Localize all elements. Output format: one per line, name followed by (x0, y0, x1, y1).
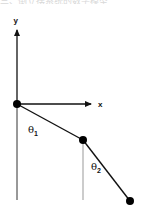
y-axis-label: y (14, 16, 19, 25)
pendulum-diagram: y x θ1 θ2 (0, 0, 146, 221)
theta1-label: θ1 (28, 124, 38, 137)
theta1-subscript: 1 (34, 130, 38, 137)
middle-joint (79, 136, 87, 144)
theta2-subscript: 2 (97, 167, 101, 174)
x-axis-label: x (98, 100, 103, 109)
pendulum-link-1 (17, 104, 83, 140)
end-mass (126, 197, 134, 205)
theta2-label: θ2 (91, 161, 101, 174)
origin-joint (13, 100, 21, 108)
